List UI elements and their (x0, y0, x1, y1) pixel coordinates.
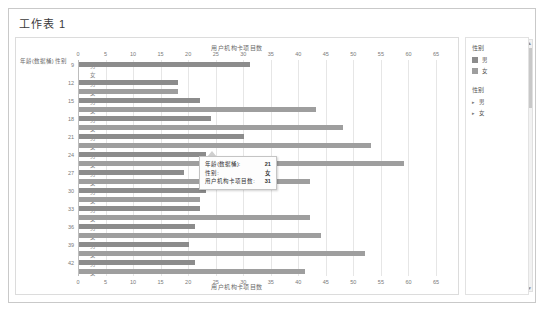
bar[interactable] (79, 197, 200, 202)
tooltip-label: 年龄(数据桶): (205, 160, 240, 169)
bar[interactable] (79, 98, 200, 103)
bar[interactable] (79, 224, 195, 229)
bar[interactable] (79, 152, 206, 157)
bar[interactable] (79, 242, 189, 247)
x-tick-label: 50 (350, 51, 356, 57)
y-tick-label: 30 (68, 188, 74, 194)
x-tick-label: 45 (323, 51, 329, 57)
bar[interactable] (79, 62, 250, 67)
bar[interactable] (79, 170, 184, 175)
x-axis-label: 用户机构卡项目数 (16, 282, 458, 291)
y-tick-label: 39 (68, 242, 74, 248)
x-axis-ticks-top: 05101520253035404550556065 (78, 51, 436, 59)
x-tick-label: 40 (295, 51, 301, 57)
y-tick-label: 42 (68, 260, 74, 266)
chart-row: 12男女 (78, 78, 436, 96)
legend-label: 男 (482, 56, 488, 64)
bar[interactable] (79, 233, 321, 238)
x-tick-label: 60 (405, 51, 411, 57)
x-tick-label: 20 (185, 51, 191, 57)
plot-region[interactable]: 0510152025303540455055606505101520253035… (78, 60, 436, 276)
bar[interactable] (79, 269, 305, 274)
worksheet-window: 工作表 1 用户机构卡项目数 年龄(数据桶) 性别 05101520253035… (8, 8, 536, 303)
filter-label: 男 (479, 98, 485, 106)
chart-row: 33男女 (78, 204, 436, 222)
bar[interactable] (79, 116, 211, 121)
filter-label: 女 (479, 109, 485, 117)
chevron-right-icon[interactable]: ▸ (472, 99, 475, 105)
x-tick-label: 15 (158, 51, 164, 57)
y-tick-label: 18 (68, 116, 74, 122)
bar[interactable] (79, 188, 206, 193)
x-tick-label: 55 (378, 51, 384, 57)
x-tick-label: 25 (213, 51, 219, 57)
y-tick-label: 33 (68, 206, 74, 212)
bar[interactable] (79, 215, 310, 220)
bar[interactable] (79, 80, 178, 85)
y-tick-label: 15 (68, 98, 74, 104)
legend-item[interactable]: 女 (472, 67, 522, 75)
filter-heading: 性别 (472, 85, 522, 94)
tooltip-value: 31 (265, 177, 271, 186)
x-tick-label: 10 (130, 51, 136, 57)
tooltip-value: 21 (265, 160, 271, 169)
chart-row: 21男女 (78, 132, 436, 150)
worksheet-title: 工作表 1 (19, 15, 66, 31)
chart-row: 36男女 (78, 222, 436, 240)
tooltip: 年龄(数据桶):21性别:女用户机构卡项目数:31 (199, 156, 277, 190)
x-tick-label: 65 (433, 51, 439, 57)
bar[interactable] (79, 251, 365, 256)
chart-row: 18男女 (78, 114, 436, 132)
bar[interactable] (79, 143, 371, 148)
legend-swatch-icon (472, 68, 478, 74)
tooltip-value: 女 (265, 169, 271, 178)
y-tick-label: 21 (68, 134, 74, 140)
gridline (436, 60, 437, 276)
bar[interactable] (79, 107, 316, 112)
legend-label: 女 (482, 67, 488, 75)
bar[interactable] (79, 260, 195, 265)
legend-heading: 性别 (472, 43, 522, 52)
chart-row: 9男女 (78, 60, 436, 78)
x-tick-label: 35 (268, 51, 274, 57)
filter-item-male[interactable]: ▸ 男 (472, 98, 522, 106)
y-tick-label: 9 (71, 62, 74, 68)
chart-area[interactable]: 用户机构卡项目数 年龄(数据桶) 性别 05101520253035404550… (15, 37, 459, 295)
legend-item[interactable]: 男 (472, 56, 522, 64)
legend-swatch-icon (472, 57, 478, 63)
x-tick-label: 30 (240, 51, 246, 57)
legend-divider (472, 78, 522, 85)
chart-row: 42男女 (78, 258, 436, 276)
x-tick-label: 0 (76, 51, 79, 57)
bar[interactable] (79, 134, 244, 139)
y-tick-label: 12 (68, 80, 74, 86)
y-tick-label: 36 (68, 224, 74, 230)
chart-row: 15男女 (78, 96, 436, 114)
bar[interactable] (79, 89, 178, 94)
legend-panel: 性别 男 女 性别 ▸ 男 ▸ 女 (465, 37, 529, 295)
x-tick-label: 5 (104, 51, 107, 57)
filter-item-female[interactable]: ▸ 女 (472, 109, 522, 117)
chart-row: 39男女 (78, 240, 436, 258)
tooltip-label: 用户机构卡项目数: (205, 177, 255, 186)
y-tick-label: 27 (68, 170, 74, 176)
bar[interactable] (79, 206, 200, 211)
bar[interactable] (79, 125, 343, 130)
y-tick-label: 24 (68, 152, 74, 158)
tooltip-label: 性别: (205, 169, 219, 178)
y-axis-title: 年龄(数据桶) 性别 (20, 57, 67, 65)
chevron-right-icon[interactable]: ▸ (472, 110, 475, 116)
